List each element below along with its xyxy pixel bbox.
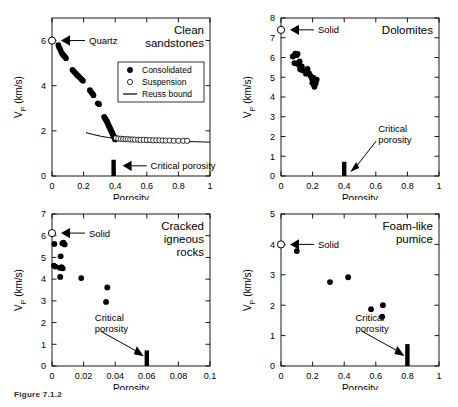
x-tick-label: 0.4 <box>338 181 351 191</box>
annotation-arrowhead <box>290 25 299 35</box>
panel-title: Foam-like <box>383 220 433 232</box>
plot-svg: 00.20.40.60.81Porosity012345VP (km/s)Foa… <box>229 200 458 390</box>
series-cracked-igneous-rocks <box>51 240 110 305</box>
annotation-label: Critical <box>378 123 407 134</box>
legend-label: Reuss bound <box>142 89 192 99</box>
x-tick-label: 0 <box>278 371 283 381</box>
x-axis-label: Porosity <box>113 383 149 390</box>
data-point <box>78 275 84 281</box>
legend-label: Suspension <box>142 77 187 87</box>
svg-text:VP (km/s): VP (km/s) <box>13 269 27 311</box>
annotation-arrowhead <box>290 239 299 249</box>
x-tick-label: 0.2 <box>306 181 319 191</box>
annotation-label: Quartz <box>89 35 118 46</box>
y-tick-label: 5 <box>270 73 275 83</box>
y-tick-label: 3 <box>270 112 275 122</box>
x-tick-label: 0 <box>49 371 54 381</box>
y-tick-label: 2 <box>41 318 46 328</box>
data-point <box>96 101 102 107</box>
y-tick-label: 6 <box>41 231 46 241</box>
data-point <box>103 299 109 305</box>
critical-porosity-marker <box>145 350 149 366</box>
x-tick-label: 0.6 <box>370 371 383 381</box>
legend-marker-suspension <box>127 79 132 84</box>
x-tick-label: 0.08 <box>170 371 188 381</box>
data-point <box>295 51 301 57</box>
y-tick-label: 6 <box>270 53 275 63</box>
annotation-arrowhead <box>61 228 70 238</box>
annotation-label: Solid <box>318 239 339 250</box>
y-tick-label: 2 <box>41 126 46 136</box>
series-dolomites <box>290 51 320 90</box>
panel-title: rocks <box>177 246 205 258</box>
x-axis-label: Porosity <box>342 383 378 390</box>
data-point <box>314 77 320 83</box>
panel-title: pumice <box>396 233 433 245</box>
y-tick-label: 5 <box>270 209 275 219</box>
x-tick-label: 0.2 <box>77 181 90 191</box>
y-tick-label: 3 <box>41 296 46 306</box>
y-tick-label: 8 <box>270 13 275 23</box>
y-tick-label: 1 <box>41 340 46 350</box>
x-tick-label: 1 <box>207 181 212 191</box>
annotation-arrowhead <box>61 35 70 45</box>
x-tick-label: 0.06 <box>138 371 156 381</box>
y-tick-label: 5 <box>41 253 46 263</box>
x-tick-label: 0.1 <box>204 371 217 381</box>
series-suspension <box>113 135 189 143</box>
critical-porosity-marker <box>405 344 409 366</box>
solid-point-marker <box>277 26 284 33</box>
data-point <box>345 274 351 280</box>
annotation-arrowhead <box>394 346 404 356</box>
annotation-label: Solid <box>89 228 110 239</box>
y-tick-label: 2 <box>270 301 275 311</box>
data-point <box>51 241 57 247</box>
x-tick-label: 0 <box>278 181 283 191</box>
plot-frame <box>281 18 439 176</box>
x-tick-label: 0.4 <box>109 181 122 191</box>
solid-point-marker <box>48 230 55 237</box>
data-point <box>80 78 86 84</box>
x-tick-label: 0.02 <box>75 371 93 381</box>
y-tick-label: 6 <box>41 36 46 46</box>
y-tick-label: 1 <box>270 331 275 341</box>
data-point <box>57 274 63 280</box>
panel-title: Clean <box>174 24 204 36</box>
solid-point-marker <box>48 37 55 44</box>
y-tick-label: 1 <box>270 152 275 162</box>
y-axis-label: VP (km/s) <box>13 76 27 118</box>
data-point <box>297 59 303 65</box>
panel-foam-like-pumice: 00.20.40.60.81Porosity012345VP (km/s)Foa… <box>229 200 458 390</box>
x-tick-label: 0.2 <box>306 371 319 381</box>
plot-svg: 00.20.40.60.81Porosity012345678VP (km/s)… <box>229 0 458 200</box>
y-axis-label: VP (km/s) <box>13 269 27 311</box>
data-point <box>312 84 318 90</box>
y-tick-label: 4 <box>270 92 275 102</box>
x-tick-label: 0.8 <box>172 181 185 191</box>
y-tick-label: 0 <box>270 361 275 371</box>
y-axis-label: VP (km/s) <box>242 76 256 118</box>
annotation-label: porosity <box>355 323 389 334</box>
y-tick-label: 4 <box>41 81 46 91</box>
plot-svg: 00.020.040.060.080.1Porosity01234567VP (… <box>0 200 229 390</box>
series-foam-like-pumice <box>294 248 386 319</box>
figure-container: 00.20.40.60.81Porosity0246VP (km/s)Clean… <box>0 0 458 407</box>
annotation-label: Critical porosity <box>151 160 216 171</box>
y-tick-label: 0 <box>41 171 46 181</box>
solid-point-marker <box>277 241 284 248</box>
svg-text:VP (km/s): VP (km/s) <box>242 76 256 118</box>
x-tick-label: 1 <box>436 371 441 381</box>
x-tick-label: 1 <box>436 181 441 191</box>
y-axis-label: VP (km/s) <box>242 269 256 311</box>
annotation-arrowhead <box>134 346 144 356</box>
series-consolidated <box>55 42 118 142</box>
data-point <box>327 279 333 285</box>
critical-porosity-marker <box>342 162 346 176</box>
data-point <box>60 265 66 271</box>
svg-text:VP (km/s): VP (km/s) <box>13 76 27 118</box>
x-tick-label: 0 <box>49 181 54 191</box>
data-point <box>58 253 64 259</box>
panel-title: Cracked <box>161 220 204 232</box>
figure-caption: Figure 7.1.2 <box>14 390 62 399</box>
panel-title: Dolomites <box>382 24 433 36</box>
